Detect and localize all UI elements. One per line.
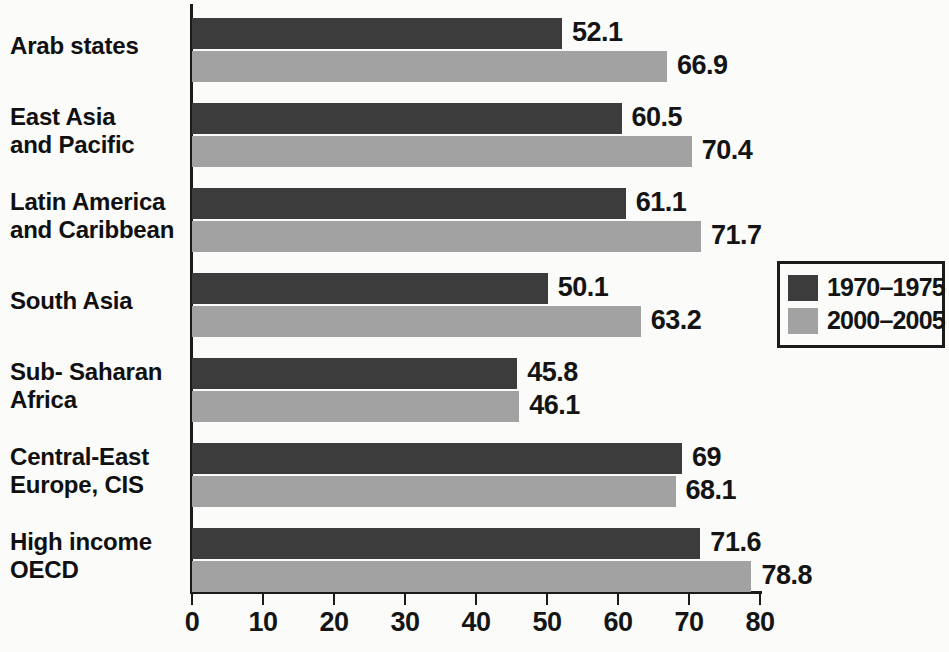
bar <box>192 391 519 422</box>
bar-chart: 01020304050607080 Arab statesEast Asiaan… <box>0 0 949 652</box>
chart-legend: 1970–1975 2000–2005 <box>777 261 945 348</box>
bar-value-label: 71.7 <box>711 220 762 251</box>
category-label-line: Central-East <box>10 443 188 471</box>
x-axis-tick-label: 80 <box>745 607 774 638</box>
bar <box>192 221 701 252</box>
x-axis-tick-label: 40 <box>461 607 490 638</box>
x-axis-tick <box>546 594 548 605</box>
bar-value-label: 68.1 <box>686 475 737 506</box>
bar <box>192 528 700 559</box>
bar-value-label: 60.5 <box>632 102 683 133</box>
x-axis-tick <box>262 594 264 605</box>
x-axis-tick <box>759 594 761 605</box>
category-label-line: East Asia <box>10 103 188 131</box>
x-axis-tick-label: 10 <box>248 607 277 638</box>
category-label: Sub- SaharanAfrica <box>10 358 188 414</box>
bar <box>192 476 676 507</box>
bar-value-label: 63.2 <box>651 305 702 336</box>
category-label-line: and Pacific <box>10 131 188 159</box>
bar <box>192 273 548 304</box>
x-axis-tick <box>688 594 690 605</box>
bar-value-label: 52.1 <box>572 17 623 48</box>
bar-value-label: 78.8 <box>761 560 812 591</box>
category-label: High incomeOECD <box>10 528 188 584</box>
bar-value-label: 66.9 <box>677 50 728 81</box>
category-label: Central-EastEurope, CIS <box>10 443 188 499</box>
legend-swatch-icon <box>788 275 818 301</box>
category-label: South Asia <box>10 287 188 315</box>
category-label-line: South Asia <box>10 287 188 315</box>
x-axis-tick-label: 50 <box>532 607 561 638</box>
bar-value-label: 71.6 <box>710 527 761 558</box>
x-axis-tick-label: 0 <box>185 607 200 638</box>
bar <box>192 18 562 49</box>
bar <box>192 358 517 389</box>
legend-item-label: 2000–2005 <box>827 306 945 335</box>
bar-value-label: 46.1 <box>529 390 580 421</box>
bar-value-label: 45.8 <box>527 357 578 388</box>
category-label: Latin Americaand Caribbean <box>10 188 188 244</box>
scan-bleedthrough-artifact <box>610 14 940 44</box>
x-axis-tick <box>475 594 477 605</box>
x-axis-tick-label: 70 <box>674 607 703 638</box>
x-axis-tick <box>191 594 193 605</box>
bar <box>192 188 626 219</box>
x-axis-tick-label: 20 <box>319 607 348 638</box>
x-axis-tick <box>404 594 406 605</box>
category-label-line: and Caribbean <box>10 216 188 244</box>
x-axis-tick-label: 60 <box>603 607 632 638</box>
category-label: Arab states <box>10 32 188 60</box>
legend-item[interactable]: 2000–2005 <box>788 304 934 337</box>
category-label-line: Europe, CIS <box>10 471 188 499</box>
bar-value-label: 70.4 <box>702 135 753 166</box>
bar <box>192 443 682 474</box>
bar-value-label: 69 <box>692 442 721 473</box>
category-label-line: High income <box>10 528 188 556</box>
bar <box>192 103 622 134</box>
category-label-line: Sub- Saharan <box>10 358 188 386</box>
x-axis-tick <box>333 594 335 605</box>
legend-swatch-icon <box>788 308 818 334</box>
category-label-line: Africa <box>10 386 188 414</box>
bar-value-label: 61.1 <box>636 187 687 218</box>
category-label-line: Arab states <box>10 32 188 60</box>
category-label-line: OECD <box>10 556 188 584</box>
legend-item-label: 1970–1975 <box>827 273 945 302</box>
bar <box>192 306 641 337</box>
bar-value-label: 50.1 <box>558 272 609 303</box>
category-label: East Asiaand Pacific <box>10 103 188 159</box>
category-label-line: Latin America <box>10 188 188 216</box>
x-axis-tick-label: 30 <box>390 607 419 638</box>
legend-item[interactable]: 1970–1975 <box>788 271 934 304</box>
bar <box>192 136 692 167</box>
x-axis-tick <box>617 594 619 605</box>
bar <box>192 561 751 592</box>
bar <box>192 51 667 82</box>
